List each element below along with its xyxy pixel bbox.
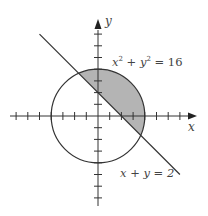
shaded-region — [79, 69, 145, 135]
y-axis-label: y — [104, 14, 112, 28]
y-axis-arrow-icon — [95, 19, 102, 29]
figure-circle-line-region: y x x2 + y2 = 16 x + y = 2 — [0, 0, 208, 216]
x-axis — [10, 112, 197, 120]
y-axis — [94, 19, 102, 206]
x-axis-arrow-icon — [188, 113, 197, 120]
line-equation-label: x + y = 2 — [120, 166, 174, 180]
x-axis-label: x — [188, 120, 195, 134]
circle-equation-label: x2 + y2 = 16 — [112, 55, 182, 69]
